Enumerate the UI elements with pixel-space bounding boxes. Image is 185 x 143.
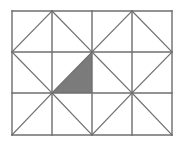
diagonal-line xyxy=(92,11,132,52)
diagonal-line xyxy=(132,52,172,93)
grid-diagram xyxy=(0,0,185,143)
diagonal-line xyxy=(132,11,172,52)
grid-lines xyxy=(12,11,172,135)
diagonal-line xyxy=(92,52,132,93)
diagonal-line xyxy=(12,11,52,52)
diagonal-line xyxy=(52,11,92,52)
diagonal-line xyxy=(52,93,92,135)
diagonal-line xyxy=(92,93,132,135)
diagonal-line xyxy=(12,93,52,135)
diagonal-line xyxy=(12,52,52,93)
diagonal-line xyxy=(132,93,172,135)
